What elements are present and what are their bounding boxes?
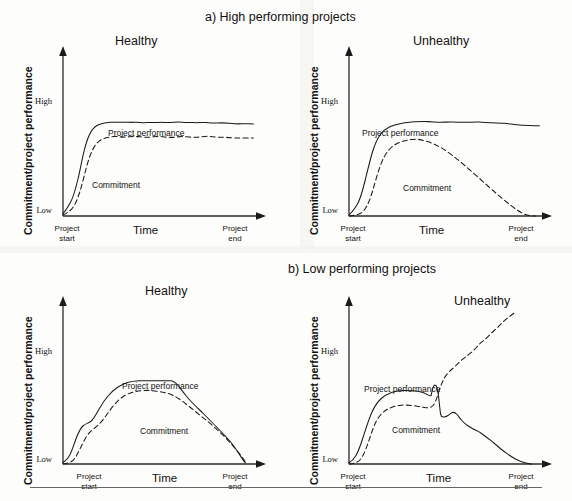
series-commitment [349, 139, 536, 216]
x-tick-end-line2: end [514, 234, 527, 243]
x-axis-arrow [256, 212, 266, 220]
y-axis-arrow [59, 296, 67, 306]
panel-c-plot [30, 284, 280, 484]
x-tick-end-line2: end [228, 234, 241, 243]
panel-a-plot [30, 34, 280, 234]
series-commitment [63, 136, 253, 215]
panel-d-plot [316, 284, 566, 484]
panel-b-unhealthy-high: Unhealthy Commitment/project performance… [286, 28, 572, 250]
series-project-performance [63, 122, 253, 214]
section-title-b: b) Low performing projects [288, 262, 436, 276]
series-commitment [63, 390, 245, 464]
x-tick-start-line2: start [59, 234, 75, 243]
series-project-performance [349, 122, 539, 215]
y-axis-arrow [345, 296, 353, 306]
footer-divider [30, 487, 542, 488]
x-axis-arrow [542, 212, 552, 220]
x-axis-arrow [256, 460, 266, 468]
y-axis-arrow [345, 46, 353, 56]
series-commitment [349, 312, 516, 464]
panel-a-healthy-high: Healthy Commitment/project performance H… [0, 28, 286, 250]
section-title-a: a) High performing projects [205, 10, 356, 24]
series-project-performance [63, 381, 246, 463]
y-axis-arrow [59, 46, 67, 56]
panel-c-healthy-low: Healthy Commitment/project performance H… [0, 280, 286, 501]
panel-b-plot [316, 34, 566, 234]
panel-d-unhealthy-low: Unhealthy Commitment/project performance… [286, 280, 572, 501]
x-axis-arrow [542, 460, 552, 468]
series-project-performance [349, 385, 532, 464]
x-tick-start-line2: start [345, 234, 361, 243]
figure-canvas: a) High performing projects b) Low perfo… [0, 0, 572, 501]
